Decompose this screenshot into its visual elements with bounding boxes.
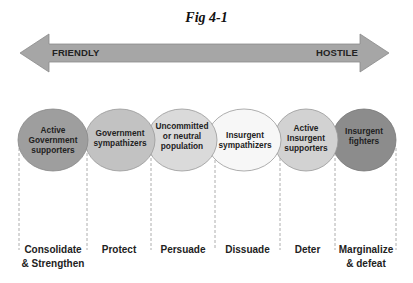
action-line: Persuade	[151, 243, 215, 257]
group-line: Insurgent	[284, 133, 327, 143]
group-line: Insurgent	[218, 130, 271, 140]
group-line: Government	[29, 135, 78, 145]
action-line: & Strengthen	[19, 257, 87, 271]
group-label-active-insurgent-supporters: Active Insurgent supporters	[276, 112, 336, 164]
group-line: sympathizers	[218, 140, 271, 150]
action-marginalize-defeat: Marginalize & defeat	[335, 243, 397, 271]
friendly-label: FRIENDLY	[52, 47, 99, 58]
group-line: population	[155, 141, 208, 151]
action-protect: Protect	[87, 243, 151, 257]
group-line: sympathizers	[93, 138, 146, 148]
group-line: Active	[29, 125, 78, 135]
action-persuade: Persuade	[151, 243, 215, 257]
group-line: Government	[93, 128, 146, 138]
group-line: fighters	[345, 136, 383, 146]
group-line: supporters	[284, 143, 327, 153]
action-deter: Deter	[280, 243, 335, 257]
group-label-government-sympathizers: Government sympathizers	[88, 112, 152, 164]
action-line: Consolidate	[19, 243, 87, 257]
action-line: & defeat	[335, 257, 397, 271]
action-line: Marginalize	[335, 243, 397, 257]
group-line: or neutral	[155, 131, 208, 141]
action-line: Deter	[280, 243, 335, 257]
group-line: Active	[284, 123, 327, 133]
action-consolidate-strengthen: Consolidate & Strengthen	[19, 243, 87, 271]
group-line: supporters	[29, 145, 78, 155]
group-line: Insurgent	[345, 126, 383, 136]
action-line: Protect	[87, 243, 151, 257]
group-label-insurgent-fighters: Insurgent fighters	[334, 110, 394, 162]
action-line: Dissuade	[215, 243, 280, 257]
group-line: Uncommitted	[155, 121, 208, 131]
hostile-label: HOSTILE	[316, 47, 358, 58]
group-label-active-government-supporters: Active Government supporters	[22, 112, 84, 168]
action-dissuade: Dissuade	[215, 243, 280, 257]
group-label-insurgent-sympathizers: Insurgent sympathizers	[212, 114, 278, 166]
group-label-uncommitted-population: Uncommitted or neutral population	[150, 110, 214, 162]
